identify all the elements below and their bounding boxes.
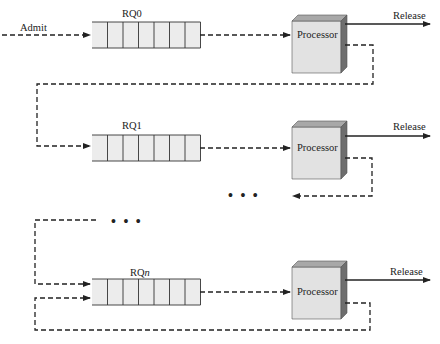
queue-body [92, 135, 201, 161]
processor-top [292, 121, 347, 127]
ellipsis-right: • • • [228, 188, 260, 203]
processor-side [341, 121, 347, 179]
queue-label-rq0: RQ0 [122, 8, 142, 19]
admit-label: Admit [20, 22, 47, 33]
release-label-0: Release [393, 10, 426, 21]
processor-label: Processor [297, 142, 338, 153]
queue-rqn: RQn [92, 267, 201, 305]
queue-body [92, 279, 201, 305]
release-label-n: Release [390, 266, 423, 277]
queue-body [92, 22, 201, 48]
processor-label: Processor [297, 29, 338, 40]
queue-rq0: RQ0 [92, 8, 201, 48]
processor-n: Processor [292, 261, 347, 319]
processor-1: Processor [292, 121, 347, 179]
feedback-arrow-into-rqn [35, 220, 96, 284]
ellipsis-left: • • • [111, 214, 143, 229]
queue-rq1: RQ1 [92, 120, 201, 161]
processor-front [292, 127, 341, 179]
processor-0: Processor [292, 15, 347, 73]
release-label-1: Release [393, 121, 426, 132]
processor-top [292, 15, 347, 21]
processor-side [341, 261, 347, 319]
feedback-scheduling-diagram: Admit RQ0 Processor Release RQ1 Processo… [0, 0, 440, 344]
processor-label: Processor [297, 286, 338, 297]
queue-label-rqn: RQn [130, 267, 150, 278]
processor-top [292, 261, 347, 267]
queue-label-rq1: RQ1 [122, 120, 142, 131]
